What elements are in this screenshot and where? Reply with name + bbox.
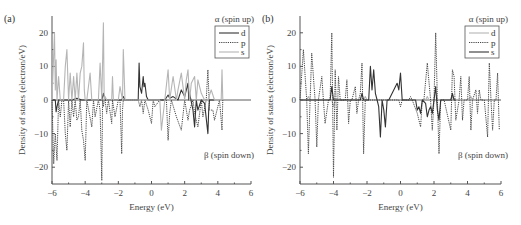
y-tick-label: −10 xyxy=(282,129,297,139)
y-tick-label: 20 xyxy=(287,28,297,38)
spin-down-annotation: β (spin down) xyxy=(458,150,508,160)
legend-label-p: p xyxy=(491,38,496,48)
y-tick-label: 0 xyxy=(292,95,297,105)
legend-label-d: d xyxy=(491,28,496,38)
x-tick-label: −4 xyxy=(80,188,90,198)
y-axis-title: Density of states (electron/eV) xyxy=(265,45,275,155)
y-tick-label: −10 xyxy=(34,129,49,139)
x-tick-label: 0 xyxy=(149,188,154,198)
panel-label: (a) xyxy=(4,13,15,25)
spin-down-annotation: β (spin down) xyxy=(204,150,254,160)
y-tick-label: 10 xyxy=(39,61,49,71)
y-tick-label: −20 xyxy=(282,162,297,172)
x-tick-label: −6 xyxy=(47,188,57,198)
x-tick-label: −6 xyxy=(295,188,305,198)
x-tick-label: 6 xyxy=(249,188,254,198)
y-tick-label: −20 xyxy=(34,162,49,172)
legend-label-d: d xyxy=(241,28,246,38)
spin-up-annotation: α (spin up) xyxy=(215,14,254,24)
x-tick-label: 4 xyxy=(216,188,221,198)
y-tick-label: 0 xyxy=(44,95,49,105)
legend-label-s: s xyxy=(241,47,245,57)
x-tick-label: 0 xyxy=(398,188,403,198)
x-tick-label: −2 xyxy=(362,188,372,198)
legend-label-s: s xyxy=(491,47,495,57)
x-tick-label: −4 xyxy=(329,188,339,198)
y-tick-label: 20 xyxy=(39,28,49,38)
x-tick-label: 6 xyxy=(499,188,504,198)
x-tick-label: 2 xyxy=(432,188,437,198)
y-axis-title: Density of states (electron/eV) xyxy=(17,45,27,155)
x-tick-label: −2 xyxy=(114,188,124,198)
legend-label-p: p xyxy=(241,38,246,48)
panel-label: (b) xyxy=(262,13,274,25)
dos-figure: −6−4−20246−20−1001020Energy (eV)Density … xyxy=(0,0,521,225)
y-tick-label: 10 xyxy=(287,61,297,71)
x-axis-title: Energy (eV) xyxy=(129,202,174,212)
series-s-line xyxy=(52,23,223,131)
x-axis-title: Energy (eV) xyxy=(378,202,423,212)
spin-up-annotation: α (spin up) xyxy=(469,14,508,24)
x-tick-label: 2 xyxy=(182,188,187,198)
x-tick-label: 4 xyxy=(465,188,470,198)
